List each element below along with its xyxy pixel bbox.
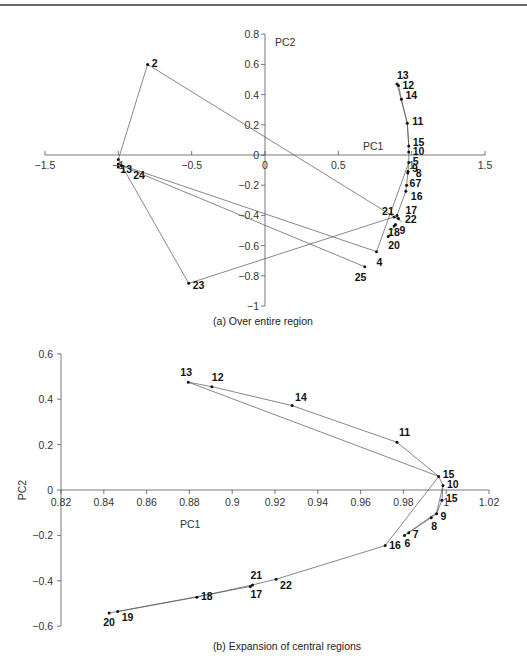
data-point xyxy=(375,250,378,253)
data-point xyxy=(275,578,278,581)
point-label: 15 xyxy=(446,492,458,504)
x-tick-label: −0.5 xyxy=(181,159,202,171)
x-tick-label: 0 xyxy=(262,159,268,171)
point-label: 8 xyxy=(431,520,437,532)
data-point xyxy=(117,158,120,161)
x-tick-label: 0.96 xyxy=(350,496,371,508)
y-tick-label: 0 xyxy=(253,149,259,161)
point-label: 6 xyxy=(404,537,410,549)
point-label: 20 xyxy=(103,616,115,628)
data-point xyxy=(291,404,294,407)
point-label: 18 xyxy=(201,590,213,602)
trajectory-segment xyxy=(118,597,197,612)
x-tick-label: 0.9 xyxy=(225,496,240,508)
point-label: 4 xyxy=(376,256,382,268)
data-point xyxy=(407,144,410,147)
data-point xyxy=(405,184,408,187)
y-axis-label: PC2 xyxy=(16,480,28,501)
point-label: 10 xyxy=(447,478,459,490)
point-label: 67 xyxy=(410,177,422,189)
chart-caption: (b) Expansion of central regions xyxy=(213,640,361,652)
data-point xyxy=(406,172,409,175)
data-point xyxy=(441,484,444,487)
y-tick-label: 0.6 xyxy=(244,58,259,70)
x-tick-label: 1.5 xyxy=(478,159,493,171)
data-point xyxy=(187,381,190,384)
trajectory-segment xyxy=(276,546,385,580)
data-point xyxy=(116,610,119,613)
data-point xyxy=(195,596,198,599)
x-tick-label: 0.88 xyxy=(179,496,200,508)
point-label: 21 xyxy=(382,205,394,217)
data-point xyxy=(384,544,387,547)
chart-a-over-entire-region: −1.5−1−0.500.511.50.80.60.40.2−0.2−0.4−0… xyxy=(0,0,527,330)
y-tick-label: 0.6 xyxy=(38,348,53,360)
point-label: 18 xyxy=(388,226,400,238)
chart-caption: (a) Over entire region xyxy=(213,315,313,327)
data-point xyxy=(400,98,403,101)
data-point xyxy=(146,63,149,66)
data-point xyxy=(407,531,410,534)
data-point xyxy=(404,190,407,193)
point-label: 11 xyxy=(399,426,410,438)
point-label: 21 xyxy=(251,569,263,581)
x-tick-label: 0.94 xyxy=(308,496,329,508)
point-label: 22 xyxy=(280,579,292,591)
data-point xyxy=(394,223,397,226)
point-label: 7 xyxy=(413,528,419,540)
data-point xyxy=(120,164,123,167)
y-tick-label: −0.2 xyxy=(32,529,53,541)
y-tick-label: 0.8 xyxy=(244,28,259,40)
chart-b-expansion-central-regions: 0.820.840.860.880.90.920.940.960.9811.02… xyxy=(0,330,527,665)
point-label: 17 xyxy=(250,588,262,600)
y-tick-label: −0.6 xyxy=(32,620,53,632)
x-tick-label: 0.98 xyxy=(393,496,414,508)
point-label: 20 xyxy=(388,239,400,251)
point-label: 22 xyxy=(405,213,417,225)
trajectory-line xyxy=(118,64,409,283)
y-axis-label: PC2 xyxy=(275,36,296,48)
point-label: 9 xyxy=(400,224,406,236)
data-point xyxy=(406,122,409,125)
point-label: 25 xyxy=(355,271,367,283)
trajectory-line xyxy=(188,382,443,535)
data-point xyxy=(397,84,400,87)
x-tick-label: 1.02 xyxy=(479,496,500,508)
point-label: 14 xyxy=(405,89,417,101)
x-tick-label: 0.92 xyxy=(265,496,286,508)
data-point xyxy=(437,475,440,478)
x-tick-label: 0.86 xyxy=(136,496,157,508)
point-label: 13 xyxy=(180,366,192,378)
y-tick-label: −0.6 xyxy=(238,240,259,252)
point-label: 2 xyxy=(152,57,158,69)
data-point xyxy=(117,166,120,169)
y-tick-label: −0.4 xyxy=(32,575,53,587)
y-tick-label: −0.8 xyxy=(238,270,259,282)
trajectory-segment xyxy=(407,123,408,146)
data-point xyxy=(407,150,410,153)
data-point xyxy=(440,499,443,502)
point-label: 11 xyxy=(412,115,423,127)
data-point xyxy=(210,385,213,388)
data-point xyxy=(435,512,438,515)
data-point xyxy=(407,161,410,164)
data-point xyxy=(395,441,398,444)
x-tick-label: −1.5 xyxy=(35,159,56,171)
point-label: 12 xyxy=(212,371,224,383)
point-label: 19 xyxy=(122,611,134,623)
data-point xyxy=(396,214,399,217)
x-axis-label: PC1 xyxy=(180,518,201,530)
y-tick-label: 0.2 xyxy=(38,439,53,451)
data-point xyxy=(397,217,400,220)
x-tick-label: 0.5 xyxy=(331,159,346,171)
y-tick-label: −0.2 xyxy=(238,179,259,191)
y-tick-label: 0 xyxy=(47,484,53,496)
data-point xyxy=(187,282,190,285)
point-label: 14 xyxy=(295,391,307,403)
data-point xyxy=(108,612,111,615)
point-label: 16 xyxy=(389,539,401,551)
point-label: 9 xyxy=(441,510,447,522)
y-tick-label: 0.4 xyxy=(38,393,53,405)
point-label: 23 xyxy=(193,279,205,291)
point-label: 16 xyxy=(411,190,423,202)
